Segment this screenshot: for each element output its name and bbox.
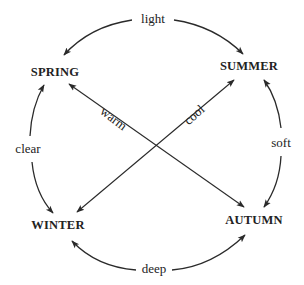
node-winter: WINTER [31,218,85,232]
clear-arrow-down [32,162,53,213]
light-arrow-right [174,20,243,54]
clear-arrow-up [30,85,44,136]
node-summer: SUMMER [220,59,279,73]
edge-label-clear: clear [15,141,41,156]
soft-arrow-up [264,80,281,128]
soft-arrow-down [264,156,281,207]
node-spring: SPRING [31,65,80,79]
edge-label-warm: warm [97,104,130,134]
deep-arrow-right [172,235,245,270]
edge-label-light: light [141,11,165,26]
season-diagram: SPRING SUMMER WINTER AUTUMN light soft d… [0,0,304,285]
cool-arrow [77,80,234,212]
deep-arrow-left [72,241,136,270]
node-autumn: AUTUMN [225,213,282,227]
light-arrow-left [64,20,132,55]
edge-label-deep: deep [142,261,167,276]
edge-label-soft: soft [271,135,291,150]
